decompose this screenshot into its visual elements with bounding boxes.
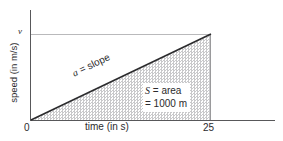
- area-annotation: S = area = 1000 m: [143, 83, 190, 112]
- area-text: area: [161, 85, 181, 96]
- x-axis-tick-label-origin: 0: [24, 123, 30, 133]
- speed-time-graph-figure: v 0 25 speed (in m/s) time (in s) a = sl…: [0, 0, 283, 141]
- area-symbol: S: [145, 85, 150, 96]
- guide-line-top: [31, 34, 211, 35]
- slope-text: slope: [85, 51, 111, 71]
- area-annotation-line-2: = 1000 m: [145, 98, 187, 111]
- area-annotation-line-1: S = area: [145, 85, 187, 98]
- y-axis-line: [30, 10, 31, 121]
- guide-line-right: [210, 34, 211, 121]
- area-equals: =: [153, 85, 159, 96]
- x-axis-line: [30, 120, 275, 121]
- x-axis-tick-label-25: 25: [203, 123, 214, 133]
- slope-annotation: a = slope: [71, 52, 112, 78]
- y-axis-title: speed (in m/s): [9, 30, 19, 116]
- x-axis-title: time (in s): [85, 122, 129, 132]
